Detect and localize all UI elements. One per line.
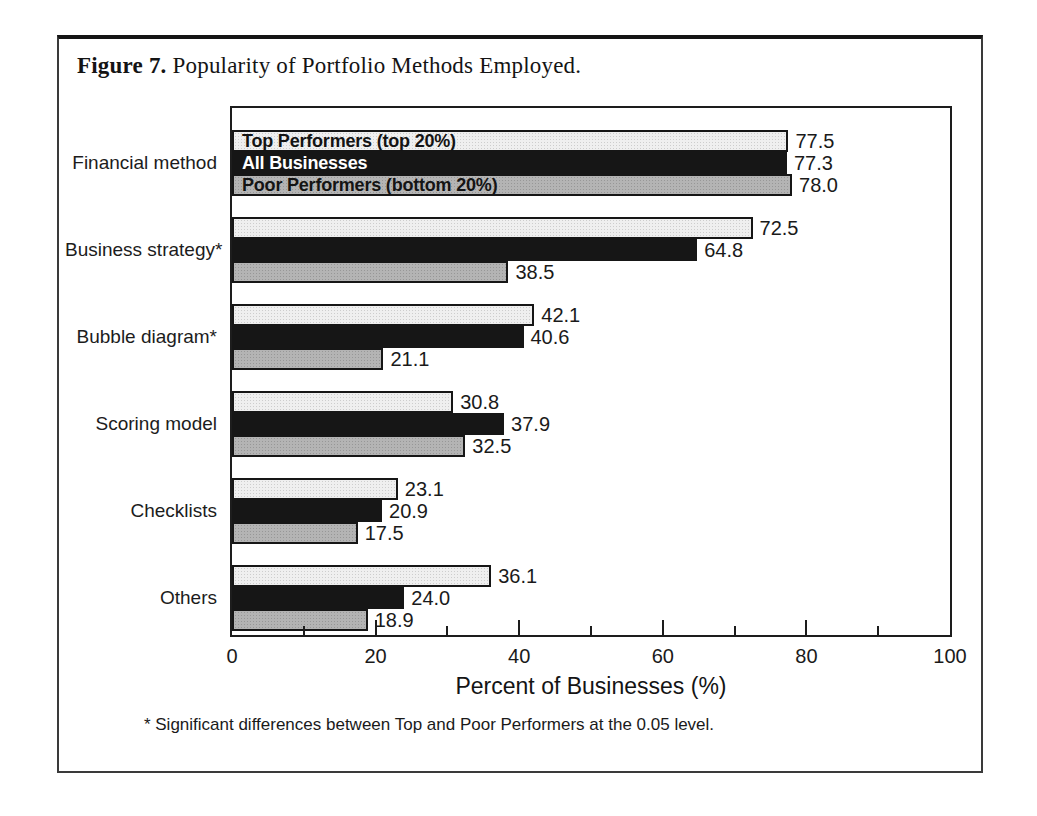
bar-value-label: 18.9 [375,609,414,632]
bar-value-label: 78.0 [799,174,838,197]
bar: 37.9 [232,413,504,435]
bar: 38.5 [232,261,508,283]
category-label: Financial method [65,151,217,175]
x-axis-minor-tick [446,626,448,635]
x-axis-major-tick [375,620,377,635]
bar-value-label: 23.1 [405,478,444,501]
x-axis-major-tick [518,620,520,635]
bar: 32.5 [232,435,465,457]
category-label: Checklists [65,499,217,523]
bar-group: Top Performers (top 20%)77.5All Business… [232,130,950,196]
bar: 20.9 [232,500,382,522]
bar-value-label: 38.5 [515,261,554,284]
x-axis-tick-label: 0 [226,645,237,668]
figure-title-text: Popularity of Portfolio Methods Employed… [167,53,582,78]
x-axis-minor-tick [877,626,879,635]
category-label: Scoring model [65,412,217,436]
legend-label: Poor Performers (bottom 20%) [234,176,497,194]
bar-value-label: 64.8 [704,239,743,262]
bar-group: 42.140.621.1 [232,304,950,370]
bar-value-label: 37.9 [511,413,550,436]
bar: 36.1 [232,565,491,587]
x-axis-tick-label: 20 [364,645,386,668]
bar-value-label: 77.5 [795,130,834,153]
bar: 24.0 [232,587,404,609]
x-axis-tick-label: 100 [933,645,966,668]
bar: 18.9 [232,609,368,631]
bar-group: 30.837.932.5 [232,391,950,457]
x-axis-minor-tick [590,626,592,635]
figure-box: Figure 7. Popularity of Portfolio Method… [57,35,983,773]
figure-title: Figure 7. Popularity of Portfolio Method… [77,53,581,79]
bar-group: 72.564.838.5 [232,217,950,283]
x-axis-tick-label: 40 [508,645,530,668]
bar-value-label: 32.5 [472,435,511,458]
x-axis-minor-tick [303,626,305,635]
x-axis-title: Percent of Businesses (%) [232,673,950,700]
bar-value-label: 24.0 [411,587,450,610]
bar-value-label: 21.1 [390,348,429,371]
bar-value-label: 20.9 [389,500,428,523]
x-axis-major-tick [662,620,664,635]
bar: 42.1 [232,304,534,326]
bar-value-label: 77.3 [794,152,833,175]
x-axis-major-tick [805,620,807,635]
plot-area: Percent of Businesses (%) Top Performers… [230,106,952,637]
bar: All Businesses77.3 [232,152,787,174]
category-label: Bubble diagram* [65,325,217,349]
x-axis-minor-tick [734,626,736,635]
bar-value-label: 17.5 [365,522,404,545]
x-axis-tick-label: 80 [795,645,817,668]
bar-value-label: 36.1 [498,565,537,588]
bar-group: 23.120.917.5 [232,478,950,544]
legend-label: All Businesses [234,154,367,172]
bar: 21.1 [232,348,383,370]
figure-number-label: Figure 7. [77,53,167,78]
legend-label: Top Performers (top 20%) [234,132,456,150]
bar: 40.6 [232,326,524,348]
bar: 30.8 [232,391,453,413]
bar-value-label: 72.5 [760,217,799,240]
bar: 72.5 [232,217,753,239]
bar-value-label: 42.1 [541,304,580,327]
category-label: Others [65,586,217,610]
bar: 23.1 [232,478,398,500]
bar: Poor Performers (bottom 20%)78.0 [232,174,792,196]
footnote: * Significant differences between Top an… [59,715,799,735]
bar-group: 36.124.018.9 [232,565,950,631]
category-label: Business strategy* [65,238,217,262]
x-axis-tick-label: 60 [652,645,674,668]
bar-value-label: 30.8 [460,391,499,414]
bar: 17.5 [232,522,358,544]
bar: 64.8 [232,239,697,261]
bar: Top Performers (top 20%)77.5 [232,130,788,152]
bar-value-label: 40.6 [531,326,570,349]
